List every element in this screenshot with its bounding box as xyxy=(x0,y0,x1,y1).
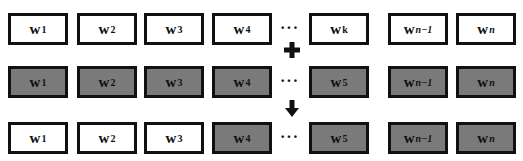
weight-subscript: n xyxy=(489,77,495,88)
weight-subscript: n−1 xyxy=(416,133,433,144)
weight-symbol: w xyxy=(30,21,41,38)
original-weights-box-4: w4 xyxy=(212,13,272,45)
weight-subscript: 1 xyxy=(41,133,46,144)
original-weights-box-7: wn xyxy=(456,13,516,45)
weight-subscript: n−1 xyxy=(416,24,433,35)
new-weights-box-5: w5 xyxy=(309,66,369,98)
merged-weights-box-6: wn−1 xyxy=(388,122,448,154)
merged-weights-box-3: w3 xyxy=(144,122,204,154)
weight-symbol: w xyxy=(477,74,488,91)
weight-symbol: w xyxy=(99,130,110,147)
weight-symbol: w xyxy=(166,21,177,38)
weight-symbol: w xyxy=(99,74,110,91)
ellipsis: ··· xyxy=(280,72,299,90)
weight-subscript: 5 xyxy=(342,77,347,88)
weight-subscript: 1 xyxy=(41,24,46,35)
weight-subscript: 2 xyxy=(110,133,115,144)
weight-subscript: 4 xyxy=(245,77,250,88)
weight-subscript: n xyxy=(489,24,495,35)
weight-symbol: w xyxy=(234,130,245,147)
ellipsis: ··· xyxy=(280,128,299,146)
weight-symbol: w xyxy=(166,74,177,91)
new-weights-box-3: w3 xyxy=(144,66,204,98)
merged-weights-box-7: wn xyxy=(456,122,516,154)
merged-weights-box-2: w2 xyxy=(77,122,137,154)
weight-symbol: w xyxy=(404,21,415,38)
weight-symbol: w xyxy=(331,74,342,91)
weight-subscript: 4 xyxy=(245,133,250,144)
plus-icon xyxy=(284,42,300,58)
weight-symbol: w xyxy=(234,21,245,38)
weight-symbol: w xyxy=(477,21,488,38)
weight-symbol: w xyxy=(166,130,177,147)
new-weights-box-4: w4 xyxy=(212,66,272,98)
original-weights-box-3: w3 xyxy=(144,13,204,45)
new-weights-box-2: w2 xyxy=(77,66,137,98)
new-weights-box-1: w1 xyxy=(8,66,68,98)
weight-subscript: n xyxy=(489,133,495,144)
merged-weights-box-5: w5 xyxy=(309,122,369,154)
weight-subscript: n−1 xyxy=(416,77,433,88)
down-arrow-icon xyxy=(285,100,299,117)
original-weights-box-1: w1 xyxy=(8,13,68,45)
weight-symbol: w xyxy=(99,21,110,38)
weight-subscript: 3 xyxy=(177,77,182,88)
weight-symbol: w xyxy=(404,74,415,91)
new-weights-box-6: wn−1 xyxy=(388,66,448,98)
original-weights-box-2: w2 xyxy=(77,13,137,45)
original-weights-box-5: wk xyxy=(309,13,369,45)
new-weights-box-7: wn xyxy=(456,66,516,98)
weight-symbol: w xyxy=(330,21,341,38)
weight-subscript: 2 xyxy=(110,24,115,35)
weight-subscript: 3 xyxy=(177,24,182,35)
ellipsis: ··· xyxy=(280,19,299,37)
weight-subscript: 3 xyxy=(177,133,182,144)
merged-weights-box-4: w4 xyxy=(212,122,272,154)
weight-symbol: w xyxy=(234,74,245,91)
original-weights-box-6: wn−1 xyxy=(388,13,448,45)
weight-subscript: k xyxy=(342,24,348,35)
weight-subscript: 2 xyxy=(110,77,115,88)
weight-symbol: w xyxy=(30,74,41,91)
weight-subscript: 5 xyxy=(342,133,347,144)
weight-symbol: w xyxy=(477,130,488,147)
weight-symbol: w xyxy=(404,130,415,147)
weight-symbol: w xyxy=(331,130,342,147)
merged-weights-box-1: w1 xyxy=(8,122,68,154)
weight-subscript: 4 xyxy=(245,24,250,35)
weight-subscript: 1 xyxy=(41,77,46,88)
weight-symbol: w xyxy=(30,130,41,147)
